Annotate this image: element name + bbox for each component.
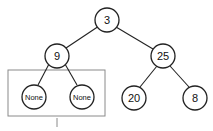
edge-3-9 bbox=[66, 26, 99, 48]
node-8: 8 bbox=[183, 86, 207, 110]
svg-text:3: 3 bbox=[104, 14, 110, 26]
edge-25-8 bbox=[170, 66, 189, 87]
node-20: 20 bbox=[122, 86, 146, 110]
edge-9-none-left bbox=[38, 64, 49, 85]
node-none-right: None bbox=[70, 85, 94, 109]
edge-9-none-right bbox=[65, 64, 77, 85]
node-none-left: None bbox=[22, 85, 46, 109]
svg-text:20: 20 bbox=[128, 92, 140, 104]
svg-text:None: None bbox=[25, 93, 43, 102]
node-25: 25 bbox=[151, 44, 175, 68]
edge-3-25 bbox=[116, 27, 153, 49]
svg-text:None: None bbox=[73, 93, 91, 102]
node-3: 3 bbox=[95, 8, 119, 32]
tree-diagram: 3 9 25 None None 20 8 bbox=[0, 0, 213, 131]
svg-text:25: 25 bbox=[157, 50, 169, 62]
svg-text:8: 8 bbox=[192, 92, 198, 104]
svg-text:9: 9 bbox=[54, 50, 60, 62]
node-9: 9 bbox=[45, 44, 69, 68]
edge-25-20 bbox=[140, 66, 157, 87]
